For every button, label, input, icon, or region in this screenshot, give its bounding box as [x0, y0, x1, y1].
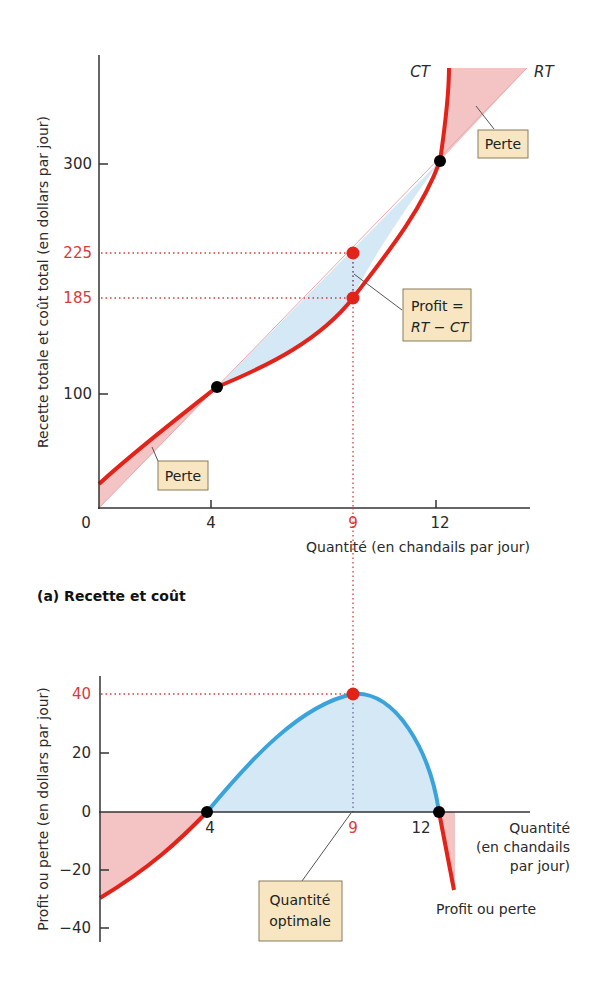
rt-line — [99, 68, 527, 508]
ytick-label-b-m40: −40 — [59, 919, 91, 937]
leader-profit — [354, 274, 402, 310]
y-axis-title-a: Recette totale et coût total (en dollars… — [35, 116, 51, 448]
y-axis-title-b: Profit ou perte (en dollars par jour) — [35, 687, 51, 931]
xtick-label-0: 0 — [81, 514, 91, 532]
ytick-label-300: 300 — [63, 155, 92, 173]
ytick-label-225: 225 — [63, 244, 92, 262]
rt-label: RT — [534, 63, 555, 81]
optimal-box-line2: optimale — [269, 913, 331, 929]
ytick-label-185: 185 — [63, 289, 92, 307]
ct-label: CT — [410, 63, 431, 81]
x-axis-title-b-line2: (en chandails — [476, 839, 570, 855]
ytick-label-b-m20: −20 — [59, 861, 91, 879]
loss-box-top-text: Perte — [485, 136, 521, 152]
ct-curve — [99, 68, 449, 484]
point-b-q12 — [433, 806, 445, 818]
xtick-label-4: 4 — [206, 514, 216, 532]
x-axis-title-a: Quantité (en chandails par jour) — [306, 539, 530, 555]
ytick-label-100: 100 — [63, 385, 92, 403]
ytick-label-b-0: 0 — [81, 803, 91, 821]
optimal-box — [259, 881, 342, 941]
point-q12 — [434, 155, 446, 167]
profit-area-b — [207, 694, 439, 812]
panel-a: 300 225 185 100 0 4 9 12 Quantité (en ch… — [35, 55, 555, 604]
xtick-label-12: 12 — [430, 514, 449, 532]
point-ct-185 — [347, 292, 360, 305]
loss-area-b-left — [100, 812, 207, 898]
ytick-label-b-20: 20 — [72, 744, 91, 762]
optimal-box-line1: Quantité — [270, 892, 331, 908]
xtick-label-b-12: 12 — [411, 819, 430, 837]
figure: 300 225 185 100 0 4 9 12 Quantité (en ch… — [0, 0, 603, 982]
profit-curve-label: Profit ou perte — [436, 901, 536, 917]
panel-b: 40 20 0 −20 −40 4 9 12 Quantité (en chan… — [35, 676, 570, 942]
point-q4 — [211, 381, 223, 393]
xtick-label-b-9: 9 — [348, 819, 358, 837]
point-b-max — [347, 688, 360, 701]
point-b-q4 — [201, 806, 213, 818]
loss-box-bottom-text: Perte — [165, 468, 201, 484]
profit-box-line1: Profit = — [411, 298, 464, 314]
point-rt-225 — [347, 247, 360, 260]
panel-a-title: (a) Recette et coût — [37, 588, 186, 604]
x-axis-title-b-line3: par jour) — [510, 858, 570, 874]
x-axis-title-b-line1: Quantité — [509, 820, 570, 836]
xtick-label-b-4: 4 — [205, 819, 215, 837]
ytick-label-b-40: 40 — [72, 685, 91, 703]
leader-optimal — [302, 813, 351, 881]
profit-box-line2: RT − CT — [411, 319, 470, 335]
profit-area — [217, 161, 440, 387]
